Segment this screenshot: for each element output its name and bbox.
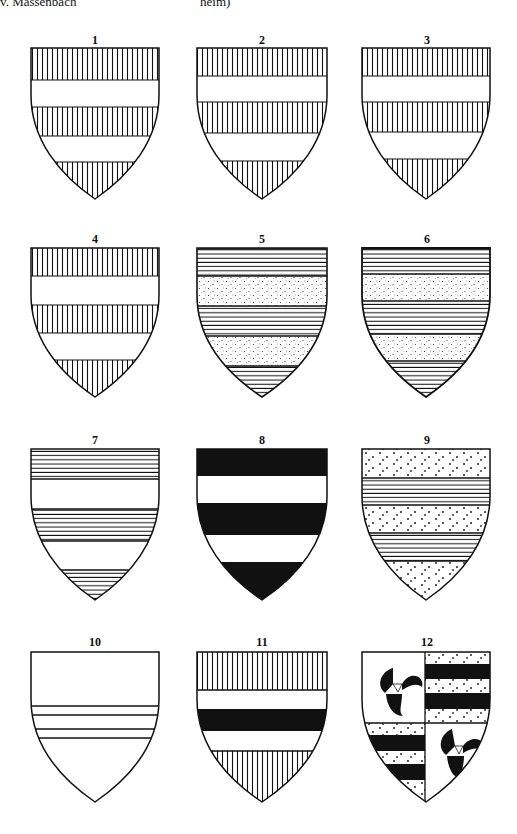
- shield-7: [31, 449, 159, 602]
- shield-6: [362, 248, 490, 400]
- shield-5: [197, 248, 327, 400]
- shield-8: [197, 449, 327, 602]
- shield-4: [31, 248, 159, 400]
- shield-1: [31, 48, 159, 202]
- shield-11: [197, 652, 327, 806]
- triskele-icon-1: [380, 668, 422, 716]
- triskele-icon-2: [441, 729, 485, 779]
- shield-12: [362, 652, 490, 805]
- shield-2: [197, 48, 327, 201]
- shield-10: [31, 706, 159, 738]
- shield-9: [362, 449, 490, 602]
- heraldry-plate: [0, 0, 517, 834]
- shield-3: [362, 48, 490, 201]
